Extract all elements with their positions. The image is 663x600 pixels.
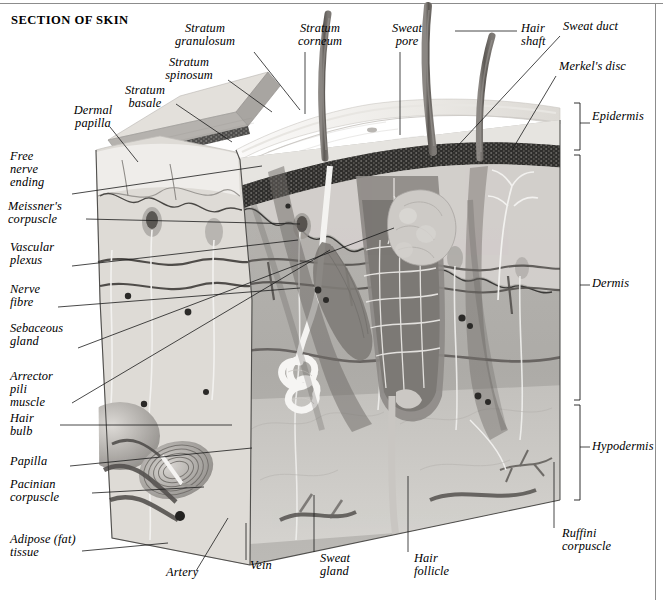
skin-section-diagram: SECTION OF SKIN Stratum granulosum Strat… (0, 0, 663, 600)
label-sebaceous-gland: Sebaceous gland (10, 322, 63, 348)
label-dermal-papilla: Dermal papilla (56, 104, 130, 130)
label-free-nerve-ending: Free nerve ending (10, 150, 44, 190)
label-dermis: Dermis (592, 277, 629, 290)
label-artery: Artery (166, 566, 198, 579)
label-sweat-pore: Sweat pore (373, 22, 441, 48)
label-pacinian-corpuscle: Pacinian corpuscle (10, 478, 59, 504)
label-sweat-duct: Sweat duct (563, 20, 618, 33)
label-sweat-gland: Sweat gland (320, 552, 350, 578)
label-meissners-corpuscle: Meissner's corpuscle (8, 200, 62, 226)
label-stratum-corneum: Stratum corneum (278, 22, 362, 48)
label-nerve-fibre: Nerve fibre (10, 283, 40, 309)
label-adipose-fat-tissue: Adipose (fat) tissue (10, 533, 76, 559)
label-vascular-plexus: Vascular plexus (10, 241, 54, 267)
label-arrector-pili-muscle: Arrector pili muscle (10, 370, 53, 410)
label-hypodermis: Hypodermis (592, 440, 654, 453)
label-vein: Vein (250, 559, 272, 572)
label-ruffini-corpuscle: Ruffini corpuscle (562, 527, 611, 553)
label-stratum-spinosum: Stratum spinosum (146, 56, 232, 82)
sebaceous-gland (387, 190, 455, 266)
sweat-pore-opening (367, 128, 377, 133)
page-title: SECTION OF SKIN (11, 13, 129, 28)
skin-illustration (0, 0, 663, 600)
label-hair-shaft: Hair shaft (521, 22, 546, 48)
label-stratum-granulosum: Stratum granulosum (160, 22, 250, 48)
label-papilla: Papilla (10, 455, 47, 468)
label-merkels-disc: Merkel's disc (559, 60, 626, 73)
label-hair-bulb: Hair bulb (10, 412, 34, 438)
label-epidermis: Epidermis (592, 110, 644, 123)
label-hair-follicle: Hair follicle (414, 552, 449, 578)
